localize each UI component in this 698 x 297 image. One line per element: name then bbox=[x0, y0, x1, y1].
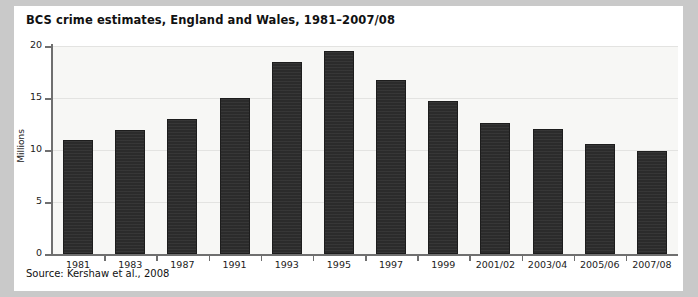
bar bbox=[115, 130, 145, 254]
y-axis-tick-label: 10 bbox=[14, 143, 42, 154]
y-axis-tick bbox=[45, 150, 52, 152]
x-axis-tick-label: 1999 bbox=[417, 259, 469, 270]
bar bbox=[324, 51, 354, 254]
x-axis-tick-label: 1997 bbox=[365, 259, 417, 270]
y-axis-tick bbox=[45, 202, 52, 204]
y-axis-tick bbox=[45, 98, 52, 100]
bar bbox=[585, 144, 615, 254]
x-axis-tick-label: 1995 bbox=[313, 259, 365, 270]
bar bbox=[480, 123, 510, 254]
x-axis-tick-label: 2005/06 bbox=[574, 259, 626, 270]
y-axis-tick-label: 15 bbox=[14, 91, 42, 102]
y-axis-tick-label: 0 bbox=[14, 247, 42, 258]
x-axis-tick-label: 1993 bbox=[261, 259, 313, 270]
bar bbox=[637, 151, 667, 254]
figure-panel: BCS crime estimates, England and Wales, … bbox=[14, 6, 683, 291]
gridline bbox=[52, 46, 678, 47]
gridline bbox=[52, 98, 678, 99]
y-axis-tick bbox=[45, 46, 52, 48]
plot-wrapper: Millions 0510152019811983198719911993199… bbox=[14, 37, 683, 265]
bar bbox=[167, 119, 197, 254]
y-axis-tick-label: 5 bbox=[14, 195, 42, 206]
bar bbox=[376, 80, 406, 254]
x-axis-tick-label: 2003/04 bbox=[522, 259, 574, 270]
chart-title: BCS crime estimates, England and Wales, … bbox=[26, 13, 395, 27]
bar bbox=[272, 62, 302, 254]
y-axis-tick-label: 20 bbox=[14, 39, 42, 50]
y-axis-tick bbox=[45, 254, 52, 256]
source-note: Source: Kershaw et al., 2008 bbox=[26, 268, 169, 279]
bar bbox=[63, 140, 93, 254]
x-axis-tick-label: 1991 bbox=[209, 259, 261, 270]
bar bbox=[533, 129, 563, 254]
bar bbox=[428, 101, 458, 254]
x-axis-tick-label: 2007/08 bbox=[626, 259, 678, 270]
x-axis-tick-label: 2001/02 bbox=[469, 259, 521, 270]
bar bbox=[220, 98, 250, 254]
